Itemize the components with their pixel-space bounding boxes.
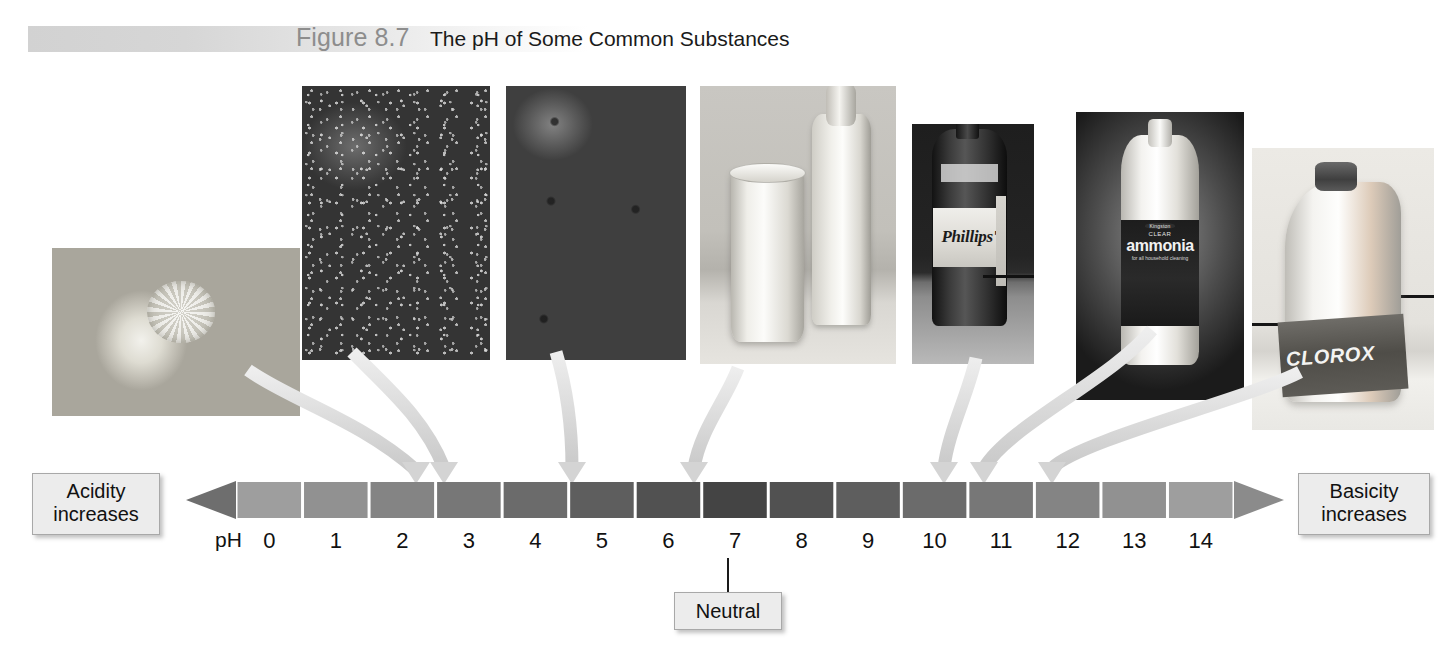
figure-number: Figure 8.7 [296, 23, 410, 52]
photo-bleach: CLOROX [1252, 148, 1434, 430]
ph-scale-segments [238, 482, 1233, 518]
ph-tick-7: 7 [729, 528, 741, 554]
ammonia-label: Kingston CLEAR ammonia for all household… [1121, 220, 1198, 326]
ph-axis-label: pH [215, 528, 242, 552]
arrow-milk-path [694, 368, 738, 468]
ph-segment-5 [570, 482, 634, 518]
ph-segment-2 [371, 482, 435, 518]
ph-tick-3: 3 [463, 528, 475, 554]
ph-tick-0: 0 [263, 528, 275, 554]
photo-milk [700, 86, 896, 364]
ph-tick-10: 10 [922, 528, 946, 554]
ph-tick-6: 6 [662, 528, 674, 554]
strawberries-image [302, 86, 490, 360]
clorox-bottle-shape: CLOROX [1285, 182, 1401, 402]
arrow-ammonia-head [970, 462, 998, 484]
ammonia-product-text: ammonia [1126, 238, 1193, 254]
ph-segment-0 [238, 482, 302, 518]
neutral-callout: Neutral [674, 592, 782, 630]
photo-ammonia: Kingston CLEAR ammonia for all household… [1076, 112, 1244, 400]
acidity-line1: Acidity [41, 480, 151, 503]
ph-tick-13: 13 [1122, 528, 1146, 554]
clorox-image: CLOROX [1252, 148, 1434, 430]
lemons-image [52, 248, 300, 416]
ph-tick-8: 8 [795, 528, 807, 554]
basicity-arrowhead [1234, 481, 1284, 519]
ph-segment-3 [437, 482, 501, 518]
ph-segment-4 [504, 482, 568, 518]
phillips-label: Phillips' [933, 208, 1006, 267]
phillips-image: Phillips' [912, 124, 1034, 364]
milk-glass-shape [731, 169, 804, 341]
ph-segment-11 [969, 482, 1033, 518]
ammonia-brand-text: Kingston [1145, 223, 1174, 229]
phillips-shelf-line [983, 275, 1034, 278]
photo-tomatoes [506, 86, 686, 360]
photo-milk-of-magnesia: Phillips' [912, 124, 1034, 364]
ph-segment-8 [770, 482, 834, 518]
arrow-lemons-head [402, 462, 430, 484]
acidity-increases-callout: Acidity increases [32, 473, 160, 535]
arrow-strawberries-path [352, 352, 444, 468]
tomatoes-image [506, 86, 686, 360]
ph-tick-4: 4 [529, 528, 541, 554]
ph-segment-1 [304, 482, 368, 518]
ammonia-bottle-shape: Kingston CLEAR ammonia for all household… [1121, 135, 1198, 365]
phillips-side-panel [996, 196, 1006, 287]
ammonia-image: Kingston CLEAR ammonia for all household… [1076, 112, 1244, 400]
ph-tick-14: 14 [1188, 528, 1212, 554]
phillips-top-band [941, 164, 998, 182]
arrow-phillips-head [930, 462, 958, 484]
milk-bottle-shape [812, 114, 871, 325]
ph-tick-11: 11 [990, 528, 1013, 554]
ph-tick-5: 5 [596, 528, 608, 554]
arrow-tomatoes-path [556, 352, 572, 468]
ammonia-subtitle-text: for all household cleaning [1132, 255, 1189, 261]
ph-segment-7 [703, 482, 767, 518]
ph-segment-6 [637, 482, 701, 518]
page-title: The pH of Some Common Substances [430, 27, 790, 51]
ammonia-neck [1148, 119, 1173, 147]
basicity-increases-callout: Basicity increases [1298, 473, 1430, 535]
ph-segment-10 [903, 482, 967, 518]
acidity-arrowhead [186, 481, 236, 519]
basicity-line1: Basicity [1307, 480, 1421, 503]
milk-image [700, 86, 896, 364]
arrow-tomatoes-head [558, 462, 586, 484]
arrow-phillips-path [944, 358, 976, 468]
ph-tick-12: 12 [1055, 528, 1079, 554]
ph-segment-12 [1036, 482, 1100, 518]
basicity-line2: increases [1307, 503, 1421, 526]
phillips-cap [956, 124, 979, 139]
ph-segment-9 [836, 482, 900, 518]
clorox-cap [1315, 162, 1357, 191]
ph-segment-14 [1169, 482, 1233, 518]
photo-lemons [52, 248, 300, 416]
arrow-milk-head [680, 462, 708, 484]
ph-tick-2: 2 [396, 528, 408, 554]
neutral-leader-line [727, 558, 729, 593]
ph-tick-9: 9 [862, 528, 874, 554]
acidity-line2: increases [41, 503, 151, 526]
ph-tick-1: 1 [330, 528, 342, 554]
phillips-bottle-shape: Phillips' [932, 129, 1008, 326]
photo-strawberries [302, 86, 490, 360]
ph-segment-13 [1102, 482, 1166, 518]
arrow-clorox-head [1038, 462, 1066, 484]
arrow-strawberries-head [430, 462, 458, 484]
phillips-brand-text: Phillips' [941, 227, 997, 247]
clorox-label: CLOROX [1278, 314, 1409, 397]
clorox-brand-text: CLOROX [1285, 342, 1376, 371]
